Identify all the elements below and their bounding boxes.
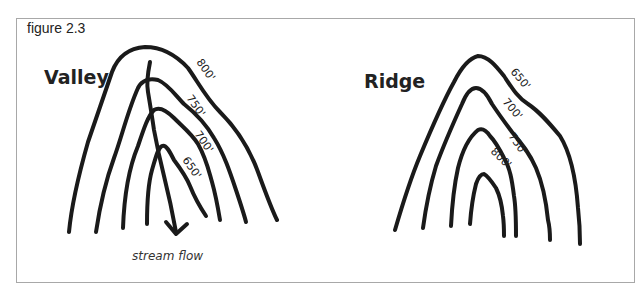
valley-contour-650 [147, 146, 206, 224]
valley-contours: 800' 750' 700' 650' [69, 47, 277, 234]
ridge-contours: 650' 700' 750' 800' [395, 56, 580, 244]
ridge-contour-700 [423, 88, 550, 240]
ridge-contour-650 [395, 56, 580, 244]
valley-label-650: 650' [180, 154, 204, 181]
ridge-contour-800 [470, 174, 504, 236]
contour-diagram: 800' 750' 700' 650' 650' 700' 750' 800' [0, 0, 643, 296]
ridge-contour-750 [451, 129, 516, 236]
